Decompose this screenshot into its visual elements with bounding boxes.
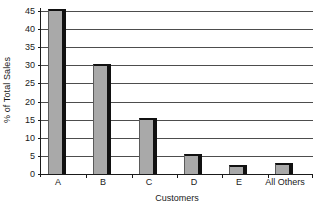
x-tick-label: A <box>55 177 61 188</box>
y-tick-label: 15 <box>25 116 35 125</box>
plot-area <box>41 11 313 174</box>
bar-group <box>268 11 313 174</box>
y-axis-title: % of Total Sales <box>0 0 14 180</box>
bar-chart: % of Total Sales 051015202530354045 ABCD… <box>0 0 321 213</box>
x-tick-label: E <box>236 177 242 188</box>
y-tick-label: 10 <box>25 134 35 143</box>
y-tick-label: 25 <box>25 79 35 88</box>
y-tick-label: 30 <box>25 61 35 70</box>
bar-group <box>132 11 177 174</box>
x-tick-label: B <box>100 177 106 188</box>
y-tick-label: 35 <box>25 43 35 52</box>
y-axis-tick-labels: 051015202530354045 <box>14 11 38 174</box>
y-tick-label: 0 <box>30 170 35 179</box>
bar[interactable] <box>229 165 247 174</box>
x-tick-label: D <box>191 177 198 188</box>
x-axis-tick-labels: ABCDEAll Others <box>41 177 313 190</box>
y-tick-label: 40 <box>25 25 35 34</box>
bar-group <box>177 11 222 174</box>
y-tick-mark <box>38 174 41 175</box>
x-tick-label: All Others <box>265 177 305 188</box>
bar-group <box>222 11 267 174</box>
y-axis-title-text: % of Total Sales <box>2 57 12 123</box>
x-axis-title: Customers <box>41 193 313 203</box>
bar-group <box>41 11 86 174</box>
bar[interactable] <box>275 163 293 174</box>
y-tick-label: 45 <box>25 7 35 16</box>
bar[interactable] <box>139 118 157 174</box>
y-tick-label: 20 <box>25 98 35 107</box>
y-tick-label: 5 <box>30 152 35 161</box>
bar[interactable] <box>184 154 202 174</box>
x-tick-label: C <box>146 177 153 188</box>
bar[interactable] <box>48 9 66 174</box>
bar[interactable] <box>93 64 111 174</box>
bar-group <box>86 11 131 174</box>
